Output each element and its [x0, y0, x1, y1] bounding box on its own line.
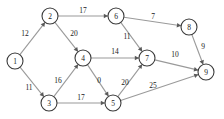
- edge-weight-4-7: 14: [111, 47, 119, 56]
- edge-weight-1-2: 12: [21, 29, 29, 38]
- node-label-9: 9: [204, 68, 208, 77]
- node-label-5: 5: [111, 99, 115, 108]
- edge-weight-7-9: 10: [171, 50, 179, 59]
- edge-weight-3-4: 16: [54, 76, 62, 85]
- node-9[interactable]: 9: [198, 64, 214, 80]
- edge-weight-5-9: 25: [149, 81, 157, 90]
- edge-weight-1-3: 11: [25, 83, 32, 92]
- node-label-7: 7: [145, 54, 149, 63]
- edges-layer: [20, 16, 203, 103]
- edge-weight-8-9: 9: [201, 42, 205, 51]
- edge-5-9: [121, 75, 199, 101]
- edge-weight-4-5: 0: [97, 76, 101, 85]
- node-4[interactable]: 4: [75, 50, 91, 66]
- node-8[interactable]: 8: [181, 19, 197, 35]
- edge-weight-3-5: 17: [77, 93, 85, 102]
- arrowhead-4-7: [135, 56, 139, 61]
- node-5[interactable]: 5: [105, 95, 121, 111]
- node-label-1: 1: [13, 57, 17, 66]
- node-7[interactable]: 7: [139, 50, 155, 66]
- graph-figure: 123456789 1211172016171402025711109: [0, 0, 224, 119]
- node-label-3: 3: [47, 99, 51, 108]
- node-6[interactable]: 6: [108, 8, 124, 24]
- edge-weight-2-4: 20: [70, 29, 78, 38]
- arrowhead-6-7: [138, 47, 142, 52]
- node-1[interactable]: 1: [7, 53, 23, 69]
- node-label-2: 2: [48, 12, 52, 21]
- edge-weight-6-7: 11: [123, 32, 130, 41]
- edge-weight-6-8: 7: [151, 12, 155, 21]
- edge-7-9: [155, 60, 198, 70]
- nodes-layer: 123456789: [7, 8, 214, 111]
- node-2[interactable]: 2: [42, 8, 58, 24]
- node-3[interactable]: 3: [41, 95, 57, 111]
- edge-weight-5-7: 20: [121, 78, 129, 87]
- edge-weight-2-6: 17: [79, 6, 87, 15]
- arrowhead-2-6: [104, 14, 108, 19]
- graph-canvas: 123456789 1211172016171402025711109: [0, 0, 224, 119]
- node-label-6: 6: [114, 12, 118, 21]
- edge-1-2: [20, 22, 45, 54]
- arrowhead-7-9: [194, 67, 199, 71]
- node-label-4: 4: [81, 54, 85, 63]
- arrowhead-3-5: [101, 101, 105, 106]
- node-label-8: 8: [187, 23, 191, 32]
